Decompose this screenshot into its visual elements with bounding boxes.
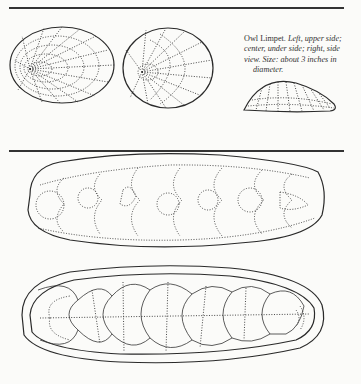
- owl-limpet-side-view-figure: [244, 81, 335, 111]
- chiton-under-view-figure: [22, 266, 324, 363]
- chiton-upper-view-figure: [28, 154, 324, 247]
- illustrations: .out { fill:none; stroke:#2a2a2a; stroke…: [0, 0, 361, 384]
- owl-limpet-upper-side-figure: [10, 27, 114, 103]
- owl-limpet-under-side-figure: [123, 28, 213, 108]
